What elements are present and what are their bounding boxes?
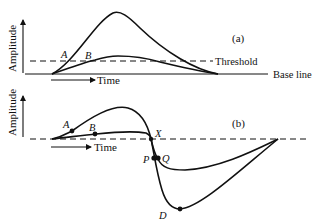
pulse-threshold-diagram: Amplitude Base line Threshold A B Time (…: [0, 0, 317, 221]
panel-a-threshold-label: Threshold: [215, 56, 258, 67]
panel-a-point-b-label: B: [85, 50, 92, 61]
panel-a-y-axis-label: Amplitude: [6, 25, 18, 72]
panel-a-time-label: Time: [97, 74, 120, 86]
panel-a: Amplitude Base line Threshold A B Time (…: [6, 12, 312, 86]
panel-b-point-q-marker: [155, 155, 160, 160]
panel-b-small-bipolar-curve: [52, 132, 278, 170]
panel-b-y-axis-label: Amplitude: [6, 89, 18, 136]
panel-b-point-x-marker: [149, 137, 153, 141]
panel-b-label: (b): [232, 117, 245, 130]
panel-b-point-q-label: Q: [162, 153, 170, 164]
panel-b-point-a-label: A: [62, 119, 70, 130]
panel-b-time-label: Time: [94, 141, 117, 153]
panel-b-point-d-label: D: [158, 210, 167, 221]
panel-b-point-p-label: P: [142, 154, 150, 165]
panel-b-point-x-label: X: [154, 128, 162, 139]
panel-a-point-a-label: A: [60, 49, 68, 60]
panel-a-label: (a): [232, 32, 245, 45]
panel-b: Amplitude A B X P Q D Time (b): [6, 89, 306, 221]
panel-b-point-a-marker: [70, 129, 75, 134]
panel-b-point-b-label: B: [89, 122, 96, 133]
panel-b-point-d-marker: [178, 207, 183, 212]
panel-a-baseline-label: Base line: [273, 69, 312, 80]
